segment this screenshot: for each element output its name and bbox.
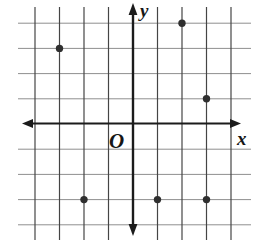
coordinate-plane-svg: y x O	[0, 0, 258, 240]
y-axis-label: y	[138, 0, 149, 21]
origin-label: O	[109, 129, 124, 153]
y-axis	[129, 3, 138, 236]
coordinate-plane-figure: y x O	[0, 0, 258, 240]
x-axis-label: x	[236, 128, 247, 149]
x-axis	[22, 119, 241, 128]
